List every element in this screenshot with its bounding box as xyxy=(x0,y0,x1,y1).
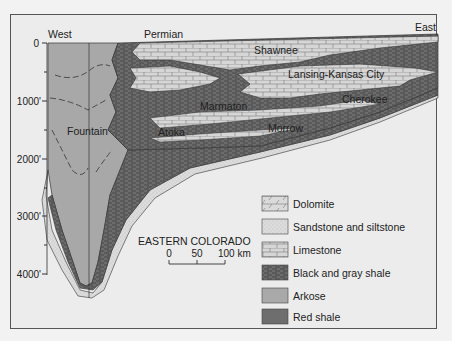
legend: Dolomite Sandstone and siltstone Limesto… xyxy=(262,196,405,324)
depth-tick-label: 1000' xyxy=(17,96,41,107)
scale-bar xyxy=(169,260,225,264)
cross-section-diagram: 0 1000' 2000' 3000' 4000' West East Perm… xyxy=(0,0,452,341)
legend-label: Black and gray shale xyxy=(293,267,391,279)
shawnee-label: Shawnee xyxy=(254,44,298,56)
legend-item-limestone: Limestone xyxy=(262,242,342,257)
legend-label: Sandstone and siltstone xyxy=(293,221,405,233)
morrow-label: Morrow xyxy=(268,122,303,134)
legend-item-dolomite: Dolomite xyxy=(262,196,335,211)
legend-item-sandstone: Sandstone and siltstone xyxy=(262,219,405,234)
fountain-label: Fountain xyxy=(67,125,108,137)
scale-bar-tick-label: 0 xyxy=(166,248,172,259)
legend-item-black-gray-shale: Black and gray shale xyxy=(262,265,391,280)
legend-swatch-limestone xyxy=(262,242,288,257)
west-label: West xyxy=(48,28,72,40)
atoka-label: Atoka xyxy=(158,126,185,138)
permian-label: Permian xyxy=(144,28,183,40)
scale-bar-tick-label: 50 xyxy=(191,248,203,259)
legend-label: Limestone xyxy=(293,244,342,256)
depth-tick-label: 0 xyxy=(33,38,39,49)
legend-swatch-red-shale xyxy=(262,309,288,324)
legend-label: Red shale xyxy=(293,311,340,323)
depth-tick-label: 3000' xyxy=(17,211,41,222)
legend-swatch-sandstone xyxy=(262,219,288,234)
legend-swatch-dolomite xyxy=(262,196,288,211)
east-label: East xyxy=(415,21,436,33)
depth-tick-label: 2000' xyxy=(17,154,41,165)
legend-swatch-arkose xyxy=(262,288,288,303)
scale-bar-region-label: EASTERN COLORADO xyxy=(138,235,251,247)
legend-item-red-shale: Red shale xyxy=(262,309,340,324)
marmaton-label: Marmaton xyxy=(200,100,247,112)
cherokee-label: Cherokee xyxy=(342,93,388,105)
scale-bar-tick-label: 100 km xyxy=(218,248,251,259)
legend-item-arkose: Arkose xyxy=(262,288,326,303)
legend-swatch-black-gray-shale xyxy=(262,265,288,280)
lansing-kansas-city-label: Lansing-Kansas City xyxy=(288,68,385,80)
legend-label: Dolomite xyxy=(293,198,335,210)
legend-label: Arkose xyxy=(293,290,326,302)
depth-tick-label: 4000' xyxy=(17,269,41,280)
